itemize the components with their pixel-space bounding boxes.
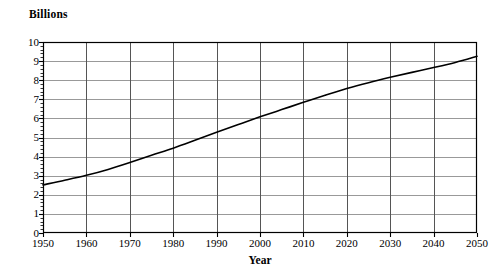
y-axis-tick-label: 3 bbox=[17, 170, 39, 181]
y-axis-tick-label: 4 bbox=[17, 151, 39, 162]
plot-area bbox=[43, 42, 477, 233]
y-axis-tick-label: 9 bbox=[17, 56, 39, 67]
plot-canvas bbox=[43, 42, 477, 233]
population-line-chart: Billions 109876543210 195019601970198019… bbox=[0, 0, 504, 275]
vertical-gridlines bbox=[87, 42, 435, 233]
y-axis-tick-label: 2 bbox=[17, 189, 39, 200]
y-axis-tick-label: 8 bbox=[17, 75, 39, 86]
y-axis-unit-caption: Billions bbox=[29, 8, 68, 21]
x-axis-tick-label: 2050 bbox=[447, 237, 504, 250]
x-axis-title: Year bbox=[43, 254, 477, 267]
y-axis-tick-label: 5 bbox=[17, 132, 39, 143]
y-axis-tick-label: 6 bbox=[17, 113, 39, 124]
y-axis-tick-label: 10 bbox=[17, 37, 39, 48]
x-axis-tick-labels: 1950196019701980199020002010202020302040… bbox=[43, 237, 477, 253]
y-axis-tick-labels: 109876543210 bbox=[14, 42, 39, 233]
y-axis-tick-label: 7 bbox=[17, 94, 39, 105]
y-axis-tick-label: 1 bbox=[17, 208, 39, 219]
